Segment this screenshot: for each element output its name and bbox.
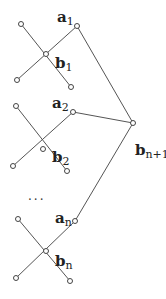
leaf-node-2-bottom-left — [11, 164, 16, 169]
b-label-3: bn — [55, 252, 73, 272]
b-node-1 — [44, 52, 49, 57]
leaf-node-3-top-left — [16, 217, 21, 222]
ellipsis: ... — [28, 189, 45, 203]
leaf-node-2-bottom-right — [65, 169, 70, 174]
root-node — [131, 121, 136, 126]
leaf-node-2-top-left — [14, 104, 19, 109]
a-node-2 — [71, 110, 76, 115]
a-node-3 — [73, 219, 78, 224]
root-edge-1 — [77, 26, 133, 123]
leaf-node-1-top-left — [19, 22, 24, 27]
leaf-node-1-bottom-left — [15, 78, 20, 83]
root-edge-3 — [75, 123, 133, 221]
leaf-node-3-bottom-left — [14, 276, 19, 281]
b-node-3 — [44, 249, 49, 254]
leaf-node-1-bottom-right — [69, 85, 74, 90]
leaf-node-3-bottom-right — [68, 279, 73, 284]
a-label-1: a1 — [57, 8, 74, 28]
b-node-2 — [41, 147, 46, 152]
root-label: bn+1 — [135, 141, 166, 161]
root-edge-2 — [73, 112, 133, 123]
a-label-2: a2 — [52, 94, 69, 114]
a-label-3: an — [55, 209, 72, 229]
b-label-2: b2 — [52, 148, 70, 168]
diagram: a1b1a2b2anbnbn+1... — [0, 0, 166, 299]
a-node-1 — [75, 24, 80, 29]
b-label-1: b1 — [55, 54, 73, 74]
